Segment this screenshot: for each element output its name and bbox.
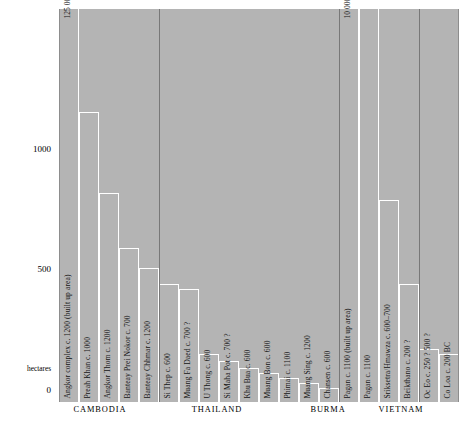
bar-label: Muang Fa Daed c. 700 ?: [185, 322, 193, 399]
group-label-vietnam: VIETNAM: [365, 406, 437, 414]
group-label-thailand: THAILAND: [142, 406, 292, 414]
bar-label: Pagan c. 1100: [365, 355, 373, 399]
bar-label: Muang Bon c. 600: [265, 341, 273, 399]
chart-overlay: Angkor complex c. 1200 (built up area)Pr…: [0, 0, 464, 448]
bar-label: Phimai c. 1100: [285, 352, 293, 399]
y-tick-1000: 1000: [0, 145, 51, 154]
bar-label: Angkor Thom c. 1200: [105, 330, 113, 399]
group-label-burma: BURMA: [295, 406, 361, 414]
y-axis-title: hectares: [27, 365, 51, 372]
annotation-pagan: 10 000 hectares→: [345, 0, 353, 19]
group-label-cambodia: CAMBODIA: [60, 406, 140, 414]
bar-label: U Thong c. 600: [205, 350, 213, 399]
bar-label: Pagan c. 1100 (built up area): [345, 309, 353, 399]
group-separator: [339, 9, 340, 402]
bar-label: Beikthano c. 200 ?: [405, 340, 413, 399]
annotation-angkor: 125 000 hectares→: [65, 0, 73, 19]
settlement-size-bar-chart: Angkor complex c. 1200 (built up area)Pr…: [0, 0, 464, 448]
bar-label: Sriksetra/Hmawza c. 600–700: [385, 305, 393, 399]
bar-label: Angkor complex c. 1200 (built up area): [65, 275, 73, 399]
group-separator: [419, 9, 420, 402]
bar-label: Preah Khan c. 1000: [85, 337, 93, 399]
bar-label: Khu Bua c. 600: [245, 350, 253, 399]
y-tick-0: 0: [0, 386, 51, 395]
bar-label: Banteay Chhmar c. 1200: [145, 321, 153, 399]
bar-label: Banteay Prei Nokor c. 700: [125, 316, 133, 399]
bar-label: Si Maha Pot c. 700 ?: [225, 334, 233, 399]
bar-label: Co Loa c. 200 BC: [445, 342, 453, 399]
bar-label: Oc Eo c. 250 ? 500 ?: [425, 334, 433, 399]
y-tick-500: 500: [0, 265, 51, 274]
bar-label: Si Thep c. 600: [165, 353, 173, 399]
bar-label: Chansen c. 600: [325, 351, 333, 399]
group-separator: [159, 9, 160, 402]
bar: [359, 9, 379, 402]
bar-label: Muang Sing c. 1200: [305, 336, 313, 399]
